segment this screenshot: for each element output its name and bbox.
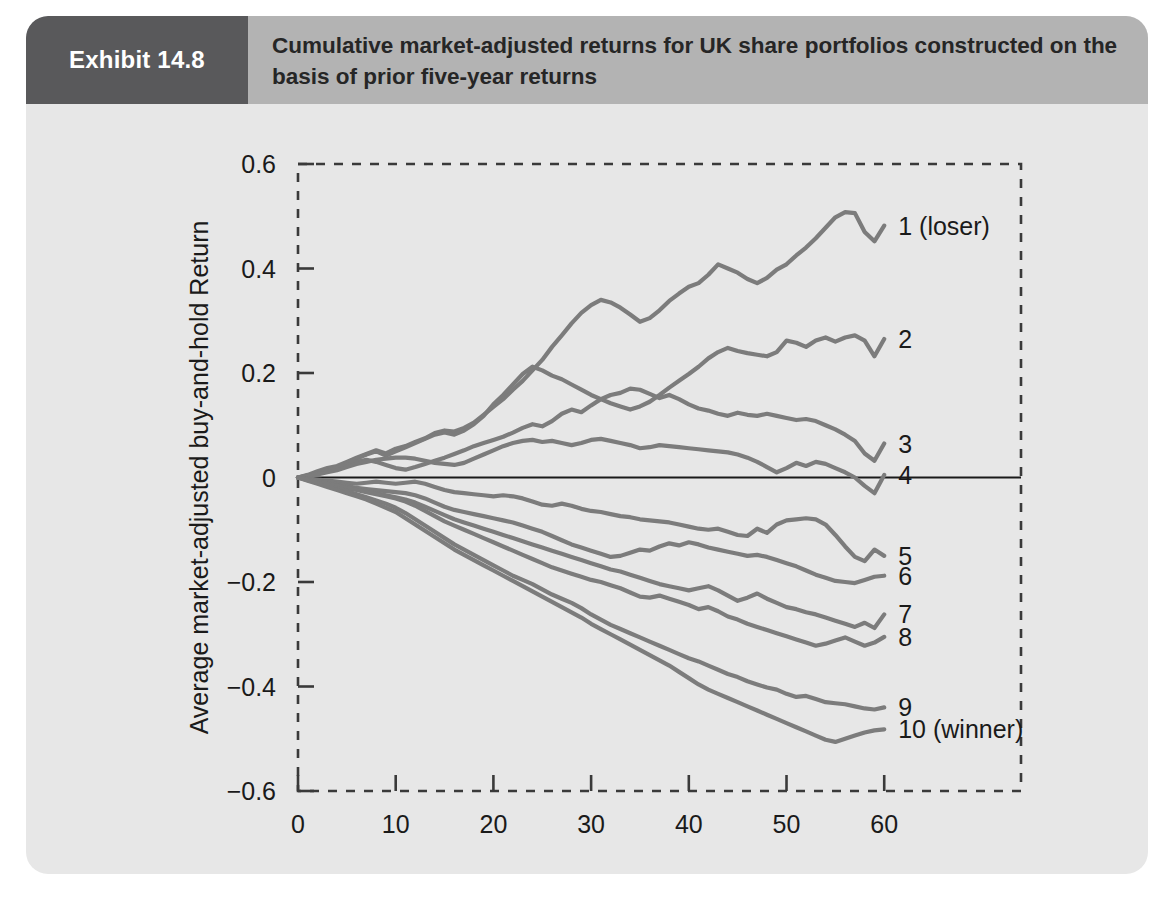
x-axis-tick-label: 0 [291, 810, 305, 838]
y-axis-tick-label: −0.4 [227, 673, 276, 701]
series-label: 3 [898, 430, 912, 458]
series-label: 2 [898, 325, 912, 353]
x-axis-title: Months since portfolio formation [482, 873, 836, 874]
chart-figure: 0.60.40.20−0.2−0.4−0.60102030405060 1 (l… [26, 104, 1148, 874]
y-axis-tick-label: −0.2 [227, 568, 276, 596]
series-label: 8 [898, 623, 912, 651]
chart-axis-titles: Months since portfolio formationAverage … [185, 221, 837, 874]
x-axis-tick-label: 50 [773, 810, 801, 838]
y-axis-tick-label: 0.4 [241, 255, 276, 283]
y-axis-tick-label: −0.6 [227, 777, 276, 805]
x-axis-tick-label: 40 [675, 810, 703, 838]
exhibit-panel: Exhibit 14.8 Cumulative market-adjusted … [26, 16, 1148, 874]
x-axis-tick-label: 60 [870, 810, 898, 838]
series-label: 4 [898, 461, 912, 489]
chart-axes [298, 164, 1021, 791]
series-label: 1 (loser) [898, 212, 990, 240]
x-axis-tick-label: 30 [577, 810, 605, 838]
series-label: 6 [898, 562, 912, 590]
y-axis-tick-label: 0.6 [241, 150, 276, 178]
x-axis-tick-label: 10 [382, 810, 410, 838]
exhibit-number-badge: Exhibit 14.8 [26, 16, 248, 104]
y-axis-title: Average market-adjusted buy-and-hold Ret… [185, 221, 213, 735]
series-label: 10 (winner) [898, 715, 1023, 743]
x-axis-tick-label: 20 [479, 810, 507, 838]
y-axis-tick-label: 0.2 [241, 359, 276, 387]
line-chart-svg: 0.60.40.20−0.2−0.4−0.60102030405060 1 (l… [26, 104, 1148, 874]
exhibit-number-label: Exhibit 14.8 [69, 46, 205, 74]
exhibit-header: Exhibit 14.8 Cumulative market-adjusted … [26, 16, 1148, 104]
y-axis-tick-label: 0 [262, 464, 276, 492]
exhibit-title: Cumulative market-adjusted returns for U… [272, 30, 1118, 92]
